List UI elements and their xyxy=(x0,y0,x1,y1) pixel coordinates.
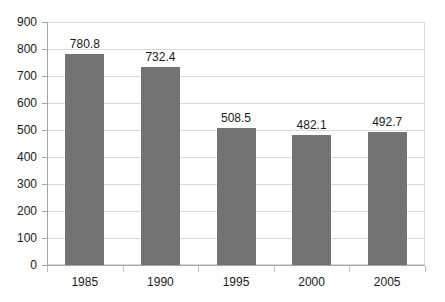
x-axis-label: 1995 xyxy=(206,276,266,289)
y-axis-label: 200 xyxy=(5,205,37,217)
bar[interactable] xyxy=(217,128,256,265)
bar-value-label: 780.8 xyxy=(55,38,115,50)
bar-value-label: 492.7 xyxy=(357,116,417,128)
x-axis-tick xyxy=(198,266,199,272)
x-axis-tick xyxy=(47,266,48,272)
y-axis-label: 300 xyxy=(5,178,37,190)
bar-value-label: 508.5 xyxy=(206,112,266,124)
x-axis-label: 1990 xyxy=(130,276,190,289)
y-axis-label: 700 xyxy=(5,70,37,82)
y-axis-label: 500 xyxy=(5,124,37,136)
y-axis-label: 800 xyxy=(5,43,37,55)
x-axis-label: 1985 xyxy=(55,276,115,289)
x-axis-label: 2005 xyxy=(357,276,417,289)
bar-value-label: 732.4 xyxy=(130,51,190,63)
x-axis-tick xyxy=(274,266,275,272)
gridline xyxy=(47,265,425,266)
bar[interactable] xyxy=(368,132,407,265)
x-axis-tick xyxy=(349,266,350,272)
y-axis-label: 0 xyxy=(5,259,37,271)
bar-value-label: 482.1 xyxy=(282,119,342,131)
bar-chart: 0100200300400500600700800900 780.8732.45… xyxy=(0,0,445,302)
y-axis-label: 900 xyxy=(5,16,37,28)
x-axis-tick xyxy=(425,266,426,272)
bar[interactable] xyxy=(141,67,180,265)
y-axis-label: 600 xyxy=(5,97,37,109)
bar[interactable] xyxy=(65,54,104,265)
x-axis-label: 2000 xyxy=(282,276,342,289)
plot-area xyxy=(47,22,425,265)
y-axis-label: 400 xyxy=(5,151,37,163)
y-axis-label: 100 xyxy=(5,232,37,244)
x-axis-tick xyxy=(123,266,124,272)
bar[interactable] xyxy=(292,135,331,265)
